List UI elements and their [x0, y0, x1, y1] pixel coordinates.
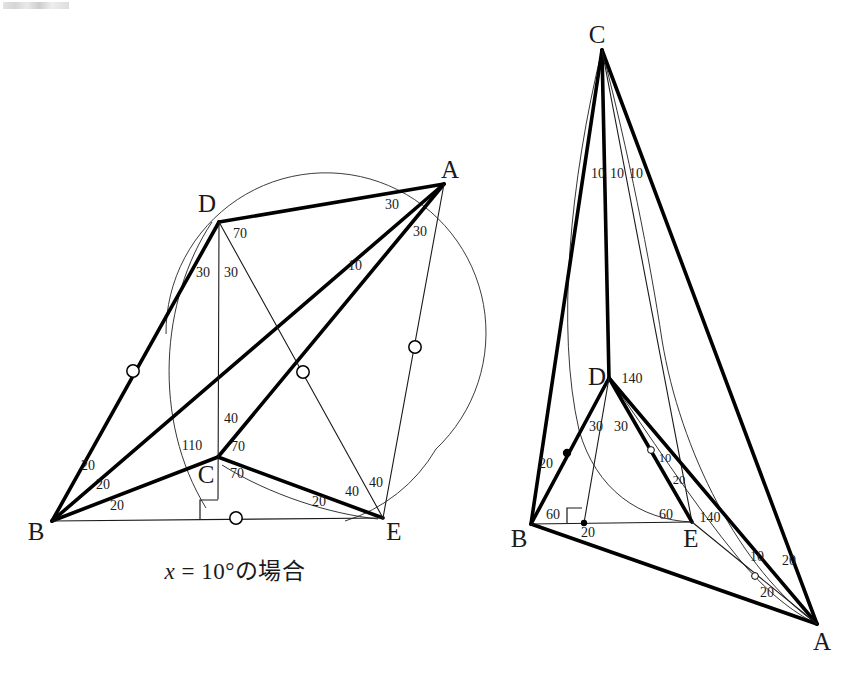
- angle-label-right-7: 10: [659, 451, 672, 465]
- caption-value: 10°: [201, 559, 235, 584]
- diagram-page: A B C D E 30 30 10 70 30 30 20 20 20 110…: [0, 0, 856, 683]
- caption-suffix: の場合: [235, 559, 306, 584]
- angle-label-right-14: 20: [782, 553, 796, 568]
- angle-label-right-0: 10: [591, 166, 605, 181]
- angle-label-right-6: 20: [539, 456, 553, 471]
- tick-circle-ea-right: [752, 573, 759, 580]
- tick-circle-da-right: [648, 447, 655, 454]
- angle-label-right-12: 140: [700, 510, 721, 525]
- angle-label-right-13: 10: [750, 549, 764, 564]
- figure-caption: x = 10°の場合: [0, 552, 470, 586]
- angle-label-right-5: 30: [614, 419, 628, 434]
- angle-label-right-11: 60: [659, 507, 673, 522]
- right-angle-marker-right: [567, 508, 582, 523]
- caption-equals: =: [182, 559, 195, 584]
- vertex-label-B-right: B: [511, 525, 528, 552]
- vertex-label-A-right: A: [813, 628, 831, 655]
- vertex-label-C-right: C: [589, 21, 606, 48]
- segment-C-D-right: [602, 50, 609, 378]
- angle-label-right-1: 10: [610, 166, 624, 181]
- segment-B-E-right: [531, 522, 692, 524]
- angle-label-right-2: 10: [629, 166, 643, 181]
- angle-label-right-4: 30: [589, 419, 603, 434]
- segment-C-A-right: [602, 50, 817, 624]
- tick-dot-bd-right: [563, 449, 570, 456]
- angle-label-right-3: 140: [622, 371, 643, 386]
- segment-C-E-right: [602, 50, 692, 522]
- caption-variable: x: [165, 559, 176, 584]
- vertex-label-D-right: D: [588, 363, 606, 390]
- angle-label-right-8: 20: [673, 473, 686, 487]
- angle-label-right-10: 20: [581, 525, 595, 540]
- angle-label-right-9: 60: [546, 507, 560, 522]
- angle-label-right-15: 20: [760, 585, 774, 600]
- vertex-label-E-right: E: [683, 525, 698, 552]
